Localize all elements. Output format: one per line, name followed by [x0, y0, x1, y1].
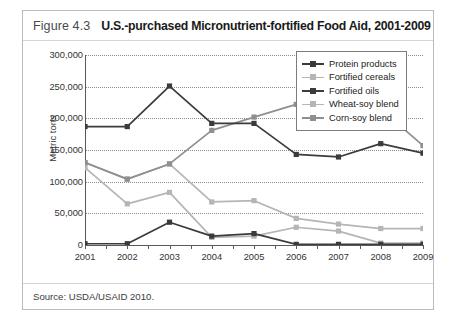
data-point: [294, 225, 299, 230]
data-point: [167, 161, 172, 166]
data-point: [251, 231, 256, 236]
x-axis-tickmark: [85, 245, 86, 249]
x-axis-tickmark: [170, 245, 171, 249]
data-point: [420, 226, 423, 231]
x-axis-tick: 2001: [63, 252, 107, 262]
x-axis-tick: 2003: [148, 252, 192, 262]
x-axis-tickmark-minor: [317, 245, 318, 249]
y-axis-tick: 250,000: [29, 82, 83, 92]
data-point: [125, 177, 130, 182]
x-axis-tickmark: [381, 245, 382, 249]
x-axis-tick: 2006: [274, 252, 318, 262]
y-axis-tick: 200,000: [29, 113, 83, 123]
data-point: [85, 165, 88, 170]
data-point: [378, 226, 383, 231]
x-axis-tickmark-minor: [106, 245, 107, 249]
data-point: [167, 83, 172, 88]
data-point: [420, 143, 423, 148]
data-point: [336, 154, 341, 159]
x-axis-tickmark-minor: [148, 245, 149, 249]
x-axis-tick: 2007: [317, 252, 361, 262]
x-axis-tickmark: [127, 245, 128, 249]
legend-marker-icon: [302, 59, 324, 68]
x-axis-tick: 2004: [190, 252, 234, 262]
x-axis-tickmark-minor: [191, 245, 192, 249]
x-axis-tick: 2008: [359, 252, 403, 262]
legend-label: Fortified cereals: [329, 72, 395, 82]
data-point: [85, 241, 88, 245]
data-point: [294, 216, 299, 221]
y-axis-tick: 100,000: [29, 177, 83, 187]
x-axis-tickmark-minor: [360, 245, 361, 249]
x-axis-tickmark-minor: [402, 245, 403, 249]
source-note: Source: USDA/USAID 2010.: [33, 291, 154, 302]
data-point: [336, 222, 341, 227]
figure-number: Figure 4.3: [33, 19, 90, 33]
x-axis-tickmark-minor: [233, 245, 234, 249]
x-axis-tickmark: [339, 245, 340, 249]
x-axis-tickmark: [296, 245, 297, 249]
legend-item[interactable]: Fortified cereals: [302, 71, 399, 85]
data-point: [209, 121, 214, 126]
data-point: [336, 242, 341, 245]
figure-card: Figure 4.3 U.S.-purchased Micronutrient-…: [22, 10, 434, 310]
legend-marker-icon: [302, 113, 324, 122]
legend-label: Wheat-soy blend: [329, 99, 399, 109]
data-point: [209, 128, 214, 133]
x-axis-tickmark: [423, 245, 424, 249]
legend-item[interactable]: Wheat-soy blend: [302, 98, 399, 112]
chart-plot-region: Metric tons 050,000100,000150,000200,000…: [23, 41, 433, 285]
series-fortified-cereals: [85, 160, 423, 231]
legend-item[interactable]: Corn-soy blend: [302, 111, 399, 125]
data-point: [125, 241, 130, 245]
figure-title-bar: Figure 4.3 U.S.-purchased Micronutrient-…: [23, 11, 433, 41]
data-point: [85, 124, 88, 129]
data-point: [294, 242, 299, 245]
data-point: [420, 151, 423, 156]
data-point: [209, 234, 214, 239]
data-point: [251, 121, 256, 126]
y-axis-tick: 300,000: [29, 50, 83, 60]
data-point: [294, 152, 299, 157]
data-point: [378, 141, 383, 146]
legend-label: Corn-soy blend: [329, 113, 392, 123]
legend-marker-icon: [302, 100, 324, 109]
y-axis-tick: 50,000: [29, 208, 83, 218]
data-point: [251, 114, 256, 119]
y-axis-tick: 0: [29, 240, 83, 250]
legend-item[interactable]: Fortified oils: [302, 84, 399, 98]
x-axis-tick: 2009: [401, 252, 445, 262]
x-axis-tickmark: [212, 245, 213, 249]
page-title: U.S.-purchased Micronutrient-fortified F…: [101, 19, 430, 33]
y-axis-tick: 150,000: [29, 145, 83, 155]
chart-legend: Protein productsFortified cerealsFortifi…: [296, 51, 407, 131]
data-point: [125, 201, 130, 206]
data-point: [336, 228, 341, 233]
data-point: [85, 160, 88, 165]
x-axis-tick: 2005: [232, 252, 276, 262]
x-axis-tick: 2002: [105, 252, 149, 262]
x-axis-tickmark-minor: [275, 245, 276, 249]
data-point: [251, 198, 256, 203]
x-axis-tickmark: [254, 245, 255, 249]
legend-label: Protein products: [329, 59, 397, 69]
data-point: [420, 242, 423, 245]
figure-source-bar: Source: USDA/USAID 2010.: [23, 283, 433, 309]
data-point: [378, 242, 383, 245]
legend-marker-icon: [302, 86, 324, 95]
y-axis-tick-labels: 050,000100,000150,000200,000250,000300,0…: [25, 41, 83, 285]
legend-marker-icon: [302, 73, 324, 82]
data-point: [125, 124, 130, 129]
data-point: [209, 199, 214, 204]
legend-label: Fortified oils: [329, 86, 379, 96]
legend-item[interactable]: Protein products: [302, 57, 399, 71]
data-point: [167, 190, 172, 195]
data-point: [167, 220, 172, 225]
